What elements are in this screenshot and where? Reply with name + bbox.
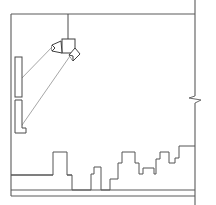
ceiling-spotlight bbox=[52, 14, 80, 61]
skyline-segment-left bbox=[11, 152, 72, 190]
break-line-symbol bbox=[189, 96, 201, 103]
stepped-skyline bbox=[11, 146, 195, 190]
beam-lower bbox=[20, 56, 70, 128]
beam-upper bbox=[20, 45, 54, 80]
skyline-segment-right bbox=[139, 146, 195, 174]
skyline-segment-mid bbox=[110, 152, 139, 190]
room-section-frame bbox=[11, 0, 195, 205]
drawing-canvas bbox=[0, 0, 216, 205]
wall-panel-upper bbox=[15, 57, 22, 97]
lighting-elevation-drawing bbox=[0, 0, 216, 205]
floor-lines bbox=[11, 190, 195, 196]
light-beams bbox=[20, 45, 70, 128]
skyline-segment-small-block bbox=[91, 167, 101, 190]
wall-panel-lower bbox=[15, 100, 26, 133]
